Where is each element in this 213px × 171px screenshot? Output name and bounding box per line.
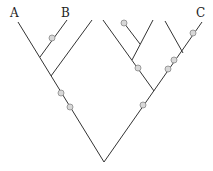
character-marker (58, 90, 64, 96)
branch-right-sub-marker-tip (124, 23, 140, 44)
character-marker (190, 30, 196, 36)
character-marker (171, 57, 177, 63)
branch-c-sister (165, 21, 183, 53)
branch-root-to-C (104, 22, 202, 162)
tip-label-b: B (61, 6, 70, 20)
branch-right-sub-tip (132, 20, 153, 60)
character-marker (49, 35, 55, 41)
branch-right-inner (103, 20, 154, 91)
character-marker (165, 66, 171, 72)
tip-label-c: C (196, 6, 205, 20)
character-marker (140, 102, 146, 108)
character-marker (67, 104, 73, 110)
branch-left-inner (51, 20, 92, 76)
character-marker (121, 20, 127, 26)
character-marker (135, 65, 141, 71)
tip-label-a: A (9, 6, 19, 20)
phylogenetic-tree: A B C (0, 0, 213, 171)
